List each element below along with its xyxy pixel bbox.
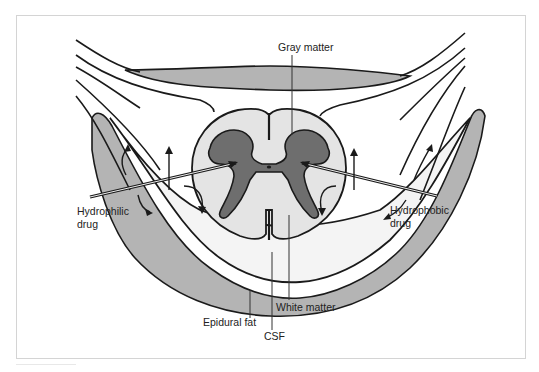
arrowhead-icon — [165, 146, 173, 154]
hydrophobic-drug-label: Hydrophobic drug — [390, 204, 449, 230]
arrowhead-icon — [350, 148, 358, 156]
epidural-fat-label: Epidural fat — [203, 316, 256, 329]
central-canal — [267, 165, 271, 168]
hydrophilic-drug-label-line1: Hydrophilic — [77, 205, 129, 218]
epidural-fat-top-band — [125, 66, 410, 90]
spinal-cord-diagram — [0, 0, 539, 372]
hydrophobic-drug-label-line2: drug — [390, 217, 449, 230]
arrowhead-icon — [426, 144, 433, 152]
gray-matter-label: Gray matter — [278, 41, 333, 54]
footer-divider — [16, 364, 76, 365]
hydrophilic-drug-label: Hydrophilic drug — [77, 205, 129, 231]
hydrophobic-drug-label-line1: Hydrophobic — [390, 204, 449, 217]
csf-label: CSF — [264, 330, 285, 343]
white-matter-label: White matter — [276, 301, 336, 314]
hydrophilic-drug-label-line2: drug — [77, 218, 129, 231]
